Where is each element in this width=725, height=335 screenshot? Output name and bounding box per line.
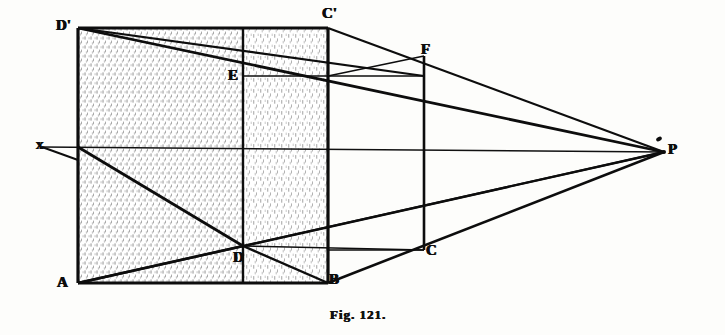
label-c-prime: C'	[322, 6, 337, 21]
figure-caption: Fig. 121.	[330, 307, 386, 323]
label-d: D	[233, 250, 244, 265]
front-face-shading	[78, 28, 328, 283]
label-d-prime: D'	[56, 18, 71, 33]
label-c: C	[426, 243, 437, 258]
label-e: E	[228, 68, 238, 83]
label-a: A	[57, 275, 68, 290]
perspective-diagram	[0, 0, 725, 335]
figure-container: D' C' F E x P D C A B Fig. 121.	[0, 0, 725, 335]
label-p: P	[668, 142, 677, 157]
label-f: F	[421, 42, 430, 57]
label-x: x	[36, 137, 44, 152]
label-b: B	[329, 272, 339, 287]
